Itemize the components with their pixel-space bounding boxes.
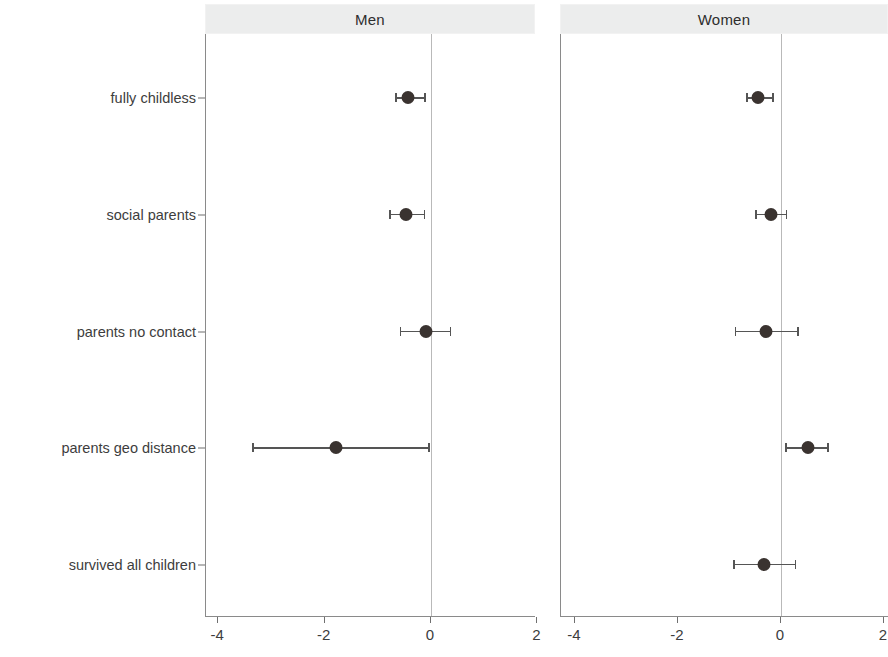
ci-lower-cap bbox=[746, 93, 748, 102]
estimate-marker bbox=[759, 325, 772, 338]
ci-lower-cap bbox=[785, 443, 787, 452]
ci-upper-cap bbox=[424, 93, 426, 102]
x-axis-tick-label: -2 bbox=[670, 626, 683, 643]
x-axis-tick-label: 2 bbox=[879, 626, 887, 643]
x-axis-tick-label: -2 bbox=[317, 626, 330, 643]
ci-lower-cap bbox=[252, 443, 254, 452]
ci-lower-cap bbox=[735, 327, 737, 336]
forest-plot-figure: Men Women fully childlesssocial parentsp… bbox=[0, 0, 888, 657]
y-axis-label-fully-childless: fully childless bbox=[111, 90, 196, 106]
x-axis-tick-label: -4 bbox=[211, 626, 224, 643]
estimate-marker bbox=[399, 208, 412, 221]
x-axis-tick-label: 2 bbox=[532, 626, 540, 643]
ci-upper-cap bbox=[795, 560, 797, 569]
ci-lower-cap bbox=[733, 560, 735, 569]
y-axis: fully childlesssocial parentsparents no … bbox=[0, 34, 205, 617]
panel-women bbox=[560, 34, 888, 617]
panel-header-women-label: Women bbox=[698, 11, 750, 28]
estimate-marker bbox=[419, 325, 432, 338]
y-axis-tick bbox=[198, 448, 205, 449]
estimate-marker bbox=[801, 441, 814, 454]
x-axis-tick bbox=[430, 617, 431, 623]
estimate-marker bbox=[758, 558, 771, 571]
x-axis-tick-label: -4 bbox=[567, 626, 580, 643]
ci-upper-cap bbox=[450, 327, 452, 336]
estimate-point-women-fully-childless bbox=[561, 91, 888, 105]
ci-upper-cap bbox=[424, 210, 426, 219]
estimate-point-men-parents-no-contact bbox=[206, 325, 535, 339]
y-axis-tick bbox=[198, 98, 205, 99]
x-axis-tick bbox=[677, 617, 678, 623]
x-axis-tick-label: 0 bbox=[776, 626, 784, 643]
y-axis-tick bbox=[198, 214, 205, 215]
x-axis-tick bbox=[780, 617, 781, 623]
panel-header-women: Women bbox=[560, 4, 888, 34]
x-axis-tick bbox=[217, 617, 218, 623]
estimate-point-women-parents-geo-distance bbox=[561, 441, 888, 455]
estimate-marker bbox=[330, 441, 343, 454]
ci-upper-cap bbox=[797, 327, 799, 336]
ci-lower-cap bbox=[389, 210, 391, 219]
ci-lower-cap bbox=[755, 210, 757, 219]
estimate-point-men-social-parents bbox=[206, 208, 535, 222]
panel-header-men-label: Men bbox=[355, 11, 385, 28]
x-axis-tick bbox=[324, 617, 325, 623]
y-axis-tick bbox=[198, 331, 205, 332]
estimate-marker bbox=[764, 208, 777, 221]
ci-upper-cap bbox=[772, 93, 774, 102]
ci-upper-cap bbox=[827, 443, 829, 452]
ci-upper-cap bbox=[786, 210, 788, 219]
x-axis-tick bbox=[574, 617, 575, 623]
estimate-point-men-parents-geo-distance bbox=[206, 441, 535, 455]
ci-upper-cap bbox=[428, 443, 430, 452]
y-axis-label-survived-all-children: survived all children bbox=[69, 557, 196, 573]
y-axis-label-parents-no-contact: parents no contact bbox=[77, 324, 196, 340]
x-axis-tick-label: 0 bbox=[426, 626, 434, 643]
ci-lower-cap bbox=[400, 327, 402, 336]
y-axis-label-social-parents: social parents bbox=[107, 207, 196, 223]
panel-men bbox=[205, 34, 535, 617]
x-axis-tick bbox=[883, 617, 884, 623]
x-axis-men: -4-202 bbox=[205, 617, 535, 657]
x-axis-women: -4-202 bbox=[560, 617, 888, 657]
x-axis-tick bbox=[536, 617, 537, 623]
estimate-point-women-social-parents bbox=[561, 208, 888, 222]
y-axis-tick bbox=[198, 564, 205, 565]
estimate-marker bbox=[402, 91, 415, 104]
ci-lower-cap bbox=[395, 93, 397, 102]
estimate-point-men-fully-childless bbox=[206, 91, 535, 105]
estimate-point-women-parents-no-contact bbox=[561, 325, 888, 339]
panel-header-men: Men bbox=[205, 4, 535, 34]
estimate-marker bbox=[751, 91, 764, 104]
y-axis-label-parents-geo-distance: parents geo distance bbox=[61, 440, 196, 456]
estimate-point-women-survived-all-children bbox=[561, 558, 888, 572]
